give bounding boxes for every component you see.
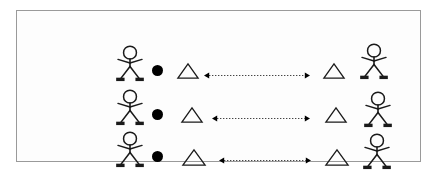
row-1-left-filled-circle-icon	[152, 65, 163, 76]
row-3-distance-arrow	[219, 156, 311, 165]
row-1-left-triangle-icon	[177, 63, 199, 79]
row-1-right-triangle-icon	[323, 63, 345, 79]
diagram-frame	[16, 10, 421, 162]
row-3-right-person-icon	[362, 133, 392, 169]
row-3-left-filled-circle-icon	[152, 151, 163, 162]
row-2-left-filled-circle-icon	[152, 109, 163, 120]
diagram-canvas	[0, 0, 439, 174]
row-2-right-person-icon	[363, 91, 393, 127]
row-1-right-person-icon	[359, 43, 389, 79]
row-3-left-person-icon	[115, 131, 145, 167]
row-1-distance-arrow	[204, 71, 310, 80]
row-2-left-triangle-icon	[181, 107, 203, 123]
row-2-left-person-icon	[115, 89, 145, 125]
row-3-left-triangle-icon	[182, 149, 206, 166]
row-2-distance-arrow	[212, 114, 310, 123]
row-3-right-triangle-icon	[325, 149, 349, 166]
row-1-left-person-icon	[115, 45, 145, 81]
row-2-right-triangle-icon	[325, 107, 347, 123]
